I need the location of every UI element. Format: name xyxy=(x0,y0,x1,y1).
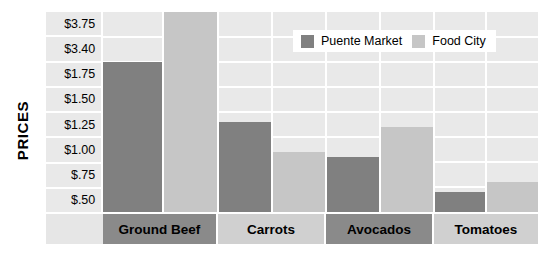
x-axis-category-label: Avocados xyxy=(326,214,434,244)
bar-tomatoes-food-city xyxy=(486,182,538,212)
x-axis-category-label: Carrots xyxy=(218,214,326,244)
y-axis-tick-label: $.75 xyxy=(46,164,101,189)
y-axis-title: PRICES xyxy=(0,60,46,200)
bar-ground-beef-puente-market xyxy=(103,62,163,212)
bar-carrots-puente-market xyxy=(218,122,272,212)
legend-label: Food City xyxy=(432,34,486,48)
x-axis-category-label: Ground Beef xyxy=(103,214,218,244)
legend-swatch-icon xyxy=(301,35,314,48)
bar-chart-figure: PRICES $3.75$3.40$1.75$1.50$1.25$1.00$.7… xyxy=(0,0,540,258)
x-axis-category-label: Tomatoes xyxy=(434,214,538,244)
legend-label: Puente Market xyxy=(321,34,402,48)
y-axis-tick-label: $1.50 xyxy=(46,88,101,113)
y-axis-tick-label: $3.75 xyxy=(46,12,101,37)
legend-item[interactable]: Food City xyxy=(412,34,486,48)
bar-ground-beef-food-city xyxy=(163,12,218,212)
legend-item[interactable]: Puente Market xyxy=(301,34,402,48)
y-axis-tick-label: $1.00 xyxy=(46,138,101,163)
y-axis-title-label: PRICES xyxy=(15,100,32,159)
y-axis-tick-label: $3.40 xyxy=(46,37,101,62)
bar-avocados-puente-market xyxy=(326,157,380,212)
bar-avocados-food-city xyxy=(380,127,434,212)
y-axis-tick-label: $1.75 xyxy=(46,63,101,88)
bar-carrots-food-city xyxy=(272,152,326,212)
x-axis-category-row: Ground BeefCarrotsAvocadosTomatoes xyxy=(46,214,538,244)
legend-swatch-icon xyxy=(412,35,425,48)
y-axis-tick-label: $.50 xyxy=(46,189,101,212)
bar-tomatoes-puente-market xyxy=(434,192,486,212)
y-axis-tick-column: $3.75$3.40$1.75$1.50$1.25$1.00$.75$.50 xyxy=(46,12,101,212)
chart-legend: Puente MarketFood City xyxy=(293,30,496,52)
chart-block: $3.75$3.40$1.75$1.50$1.25$1.00$.75$.50 P… xyxy=(46,12,538,244)
bar-pair-separator xyxy=(162,12,164,212)
bar-pair-separator xyxy=(271,12,273,212)
y-axis-tick-label: $1.25 xyxy=(46,113,101,138)
group-separator xyxy=(217,12,219,212)
category-row-spacer xyxy=(46,214,103,244)
